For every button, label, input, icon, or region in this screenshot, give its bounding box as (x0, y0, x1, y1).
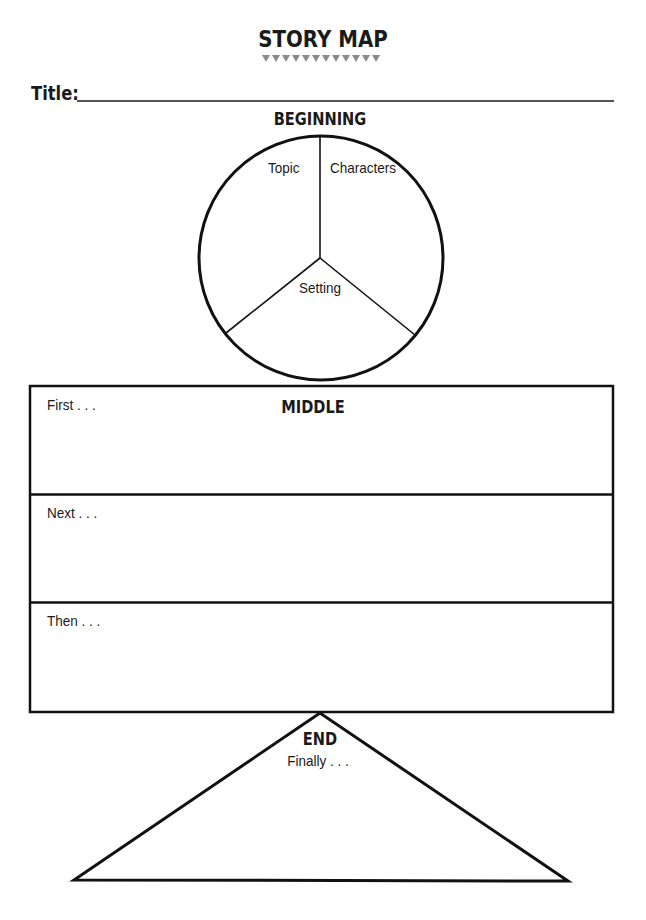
topic-area[interactable] (210, 185, 315, 305)
then-label: Then . . . (47, 612, 100, 629)
topic-label: Topic (268, 159, 300, 176)
characters-label: Characters (330, 159, 396, 176)
first-row-area[interactable] (33, 420, 610, 492)
end-heading: END (234, 729, 406, 749)
finally-area[interactable] (160, 780, 480, 875)
next-label: Next . . . (47, 504, 97, 521)
characters-area[interactable] (325, 185, 430, 305)
first-label: First . . . (47, 396, 96, 413)
then-row-area[interactable] (33, 636, 610, 710)
beginning-heading: BEGINNING (234, 109, 406, 129)
finally-label: Finally . . . (273, 752, 363, 769)
next-row-area[interactable] (33, 528, 610, 600)
middle-heading: MIDDLE (227, 397, 399, 417)
setting-area[interactable] (250, 300, 390, 370)
